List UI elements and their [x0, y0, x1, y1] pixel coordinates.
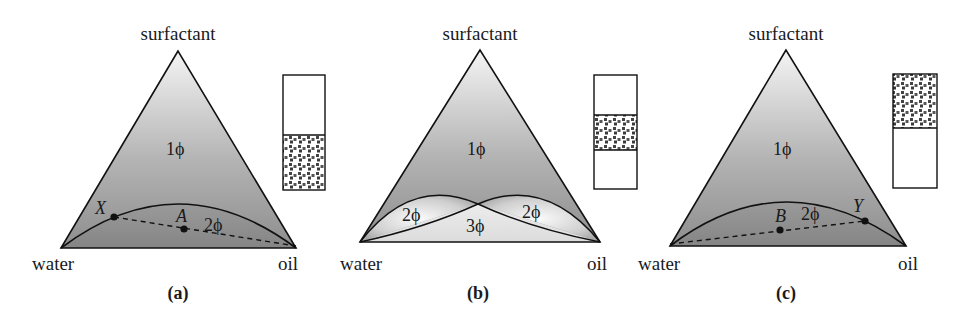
- caption-a: (a): [168, 283, 189, 304]
- caption-b: (b): [467, 283, 489, 304]
- one-phase-label: 1ϕ: [467, 139, 485, 159]
- test-tube-a: [283, 75, 325, 190]
- point-x-label: X: [94, 198, 107, 218]
- microemulsion-layer: [594, 115, 637, 150]
- caption-c: (c): [776, 283, 796, 304]
- vertex-label-surfactant: surfactant: [749, 23, 825, 44]
- vertex-label-water: water: [32, 253, 75, 274]
- vertex-label-water: water: [340, 253, 383, 274]
- test-tube-b: [594, 75, 637, 189]
- panel-c: surfactant B Y 2ϕ 1ϕ water oil (c): [638, 23, 937, 304]
- microemulsion-layer: [283, 135, 325, 190]
- three-phase-label: 3ϕ: [466, 216, 484, 236]
- vertex-label-oil: oil: [898, 253, 918, 274]
- two-phase-label: 2ϕ: [204, 215, 222, 235]
- point-b-marker: [776, 226, 783, 233]
- panel-b: surfactant 1ϕ 2ϕ 2ϕ 3ϕ water oil (b): [340, 23, 637, 304]
- one-phase-label: 1ϕ: [773, 139, 791, 159]
- ternary-phase-diagrams: surfactant X A 2ϕ 1ϕ water oil (a) surfa…: [0, 0, 970, 316]
- point-b-label: B: [775, 206, 786, 226]
- point-a-marker: [180, 225, 187, 232]
- clear-layer: [893, 128, 937, 188]
- vertex-label-surfactant: surfactant: [443, 23, 519, 44]
- test-tube-c: [893, 74, 937, 188]
- two-phase-left-label: 2ϕ: [402, 205, 420, 225]
- vertex-label-oil: oil: [587, 253, 607, 274]
- microemulsion-layer: [893, 74, 937, 128]
- two-phase-right-label: 2ϕ: [522, 202, 540, 222]
- one-phase-label: 1ϕ: [166, 139, 184, 159]
- vertex-label-oil: oil: [278, 253, 298, 274]
- panel-a: surfactant X A 2ϕ 1ϕ water oil (a): [32, 23, 325, 304]
- vertex-label-water: water: [638, 253, 681, 274]
- vertex-label-surfactant: surfactant: [141, 23, 217, 44]
- point-x-marker: [110, 213, 117, 220]
- two-phase-label: 2ϕ: [801, 204, 819, 224]
- clear-layer: [283, 75, 325, 135]
- point-y-marker: [861, 217, 868, 224]
- point-a-label: A: [175, 206, 188, 226]
